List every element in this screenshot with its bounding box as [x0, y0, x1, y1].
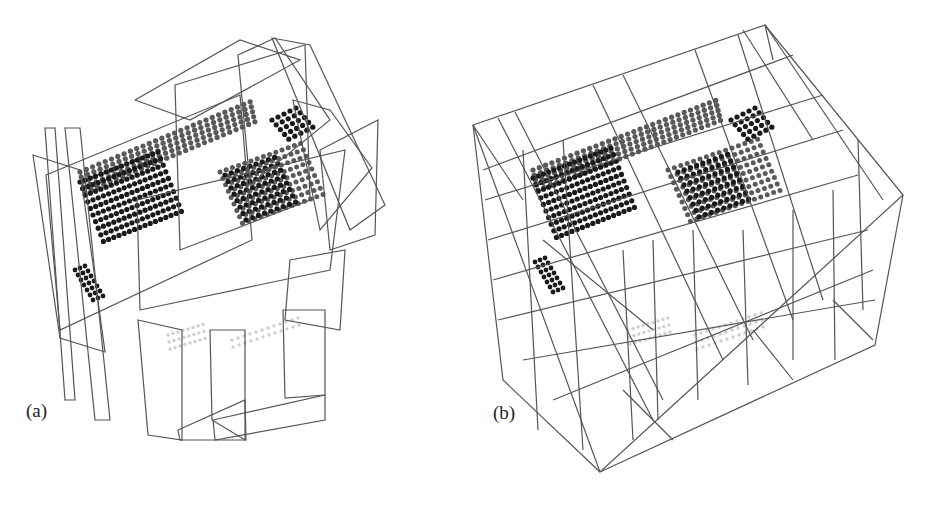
- panel-b-figure: [463, 0, 926, 506]
- panel-label-b: (b): [493, 402, 515, 424]
- panel-b: (b): [463, 0, 926, 506]
- wireframe-planes: [33, 38, 385, 440]
- panel-a-figure: [0, 0, 463, 506]
- panel-label-a: (a): [26, 400, 47, 422]
- wireframe-boxes: [473, 25, 903, 472]
- panel-a: (a): [0, 0, 463, 506]
